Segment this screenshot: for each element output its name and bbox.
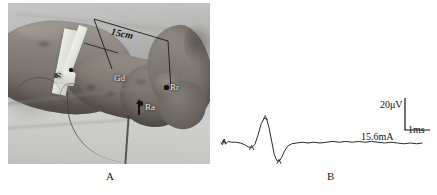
figure-container: S Gd Ra Rr 15cm 20μV 1ms 15.6mA A B bbox=[0, 0, 437, 195]
waveform-marker-positive-peak bbox=[263, 116, 267, 121]
label-active-electrode: Ra bbox=[145, 103, 155, 112]
distance-measurement-bracket bbox=[8, 3, 210, 164]
waveform-plot bbox=[213, 0, 437, 164]
reference-recording-electrode-dot bbox=[164, 85, 169, 90]
waveform-markers bbox=[221, 116, 281, 164]
panel-caption-a: A bbox=[106, 171, 114, 182]
panel-caption-b: B bbox=[327, 171, 334, 182]
label-reference-electrode: Rr bbox=[170, 83, 179, 92]
label-stimulator: S bbox=[57, 71, 62, 80]
stimulus-intensity-label: 15.6mA bbox=[361, 132, 394, 142]
scale-label-amplitude: 20μV bbox=[380, 100, 403, 110]
panel-b-waveform: 20μV 1ms 15.6mA bbox=[213, 0, 437, 164]
label-ground-electrode: Gd bbox=[114, 74, 125, 83]
ra-pointer-arrow bbox=[138, 103, 140, 115]
stimulator-electrode-dot bbox=[69, 68, 73, 72]
scale-label-time: 1ms bbox=[408, 125, 425, 135]
panel-a-photograph: S Gd Ra Rr 15cm bbox=[8, 3, 210, 164]
